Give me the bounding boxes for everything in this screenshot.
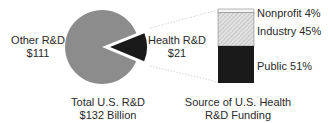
bar-caption-line-2: R&D Funding [180,109,296,122]
bar-segment-public [218,46,254,83]
pie-caption-line-2: $132 Billion [58,109,158,122]
label-health-rd: Health R&D $21 [144,34,210,60]
health-rd-name: Health R&D [144,34,210,47]
stacked-bar [218,9,254,83]
label-other-rd: Other R&D $111 [10,34,66,60]
other-rd-name: Other R&D [10,34,66,47]
label-nonprofit: Nonprofit 4% [257,7,321,20]
other-rd-value: $111 [10,47,66,60]
label-industry: Industry 45% [257,25,321,38]
bar-caption-line-1: Source of U.S. Health [180,96,296,109]
pie-caption: Total U.S. R&D $132 Billion [58,96,158,122]
pie-caption-line-1: Total U.S. R&D [58,96,158,109]
bar-segment-industry [218,13,254,47]
bar-segment-nonprofit [218,9,254,13]
bar-caption: Source of U.S. Health R&D Funding [180,96,296,122]
label-public: Public 51% [257,60,312,73]
health-rd-value: $21 [144,47,210,60]
